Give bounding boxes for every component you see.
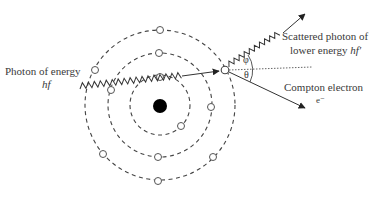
incoming-photon-wave	[79, 72, 181, 89]
scattered-photon-wave	[226, 31, 280, 67]
electron	[210, 154, 217, 161]
electron	[155, 154, 162, 161]
electron	[92, 67, 99, 74]
incoming-photon-label: Photon of energy	[5, 65, 81, 77]
nucleus	[153, 99, 167, 113]
reference-direction-line	[229, 67, 312, 70]
scattered-energy-symbol: hf′	[350, 44, 361, 56]
compton-electron-label: Compton electron	[284, 81, 363, 93]
incoming-photon-energy: hf	[42, 78, 51, 90]
scattered-photon-energy-label: lower energy hf′	[290, 44, 361, 56]
scattered-photon-label: Scattered photon of	[282, 30, 368, 42]
interaction-electron	[221, 66, 229, 74]
angle-phi-label: φ	[243, 54, 249, 65]
electron	[178, 123, 185, 130]
electron	[100, 151, 107, 158]
compton-electron-symbol: e⁻	[316, 94, 325, 106]
angle-theta-label: θ	[244, 69, 249, 80]
electron	[155, 178, 162, 185]
electron	[156, 50, 163, 57]
electron	[108, 87, 115, 94]
incoming-photon-arrow	[182, 71, 219, 76]
electron	[208, 104, 215, 111]
electron	[157, 27, 164, 34]
scattered-energy-text: lower energy	[290, 44, 350, 56]
